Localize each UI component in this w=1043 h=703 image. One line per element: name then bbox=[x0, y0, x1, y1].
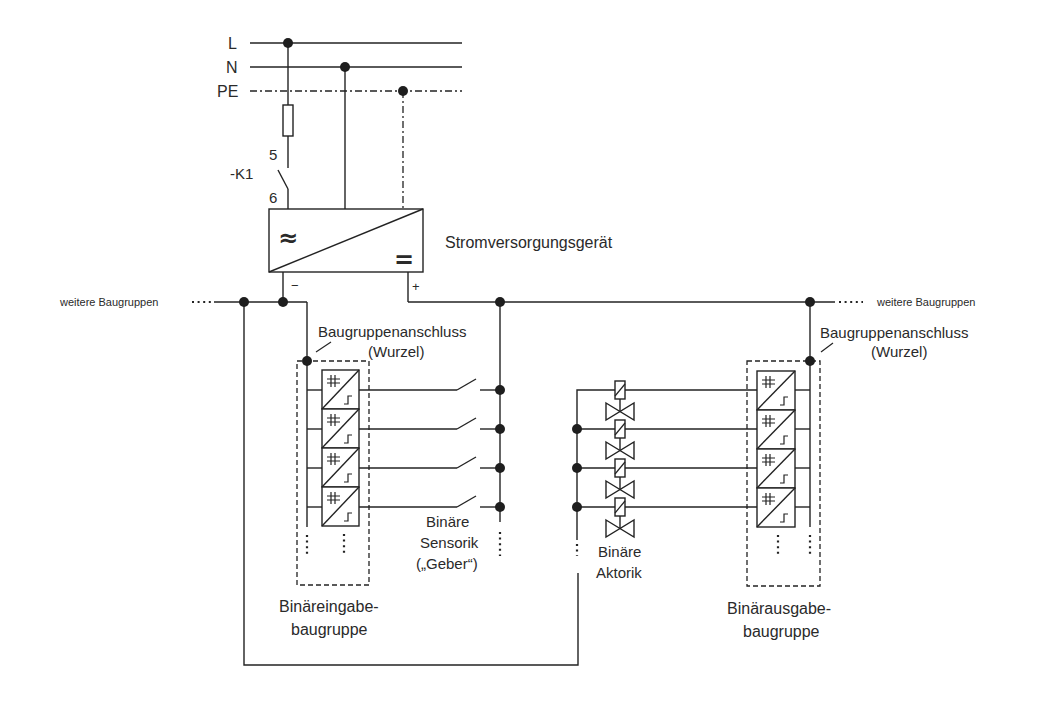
junction-dot bbox=[572, 424, 582, 434]
junction-dot bbox=[572, 463, 582, 473]
output-root-sublabel: (Wurzel) bbox=[871, 343, 927, 360]
junction-dot-pe bbox=[398, 86, 408, 96]
dc-symbol-icon: = bbox=[394, 246, 414, 274]
switch-contact-icon bbox=[457, 418, 476, 429]
sensor-switch bbox=[359, 457, 505, 473]
sensors-label-line1: Binäre bbox=[426, 513, 469, 530]
power-supply-unit: ≈ = Stromversorgungsgerät − + bbox=[269, 209, 613, 302]
input-channel-block bbox=[322, 487, 359, 526]
ac-symbol-icon: ≈ bbox=[278, 224, 298, 252]
output-channel-block bbox=[757, 410, 795, 449]
output-root-leader-line bbox=[821, 343, 833, 352]
wiring-diagram: L N PE 5 -K1 6 ≈ = Stromversorgungsgerät bbox=[0, 0, 1043, 703]
input-channel-block bbox=[322, 370, 359, 409]
sensors-label-line3: („Geber“) bbox=[416, 555, 478, 572]
terminal-5-label: 5 bbox=[269, 146, 277, 163]
input-module-root-dot bbox=[302, 356, 312, 366]
output-channel-block bbox=[757, 449, 795, 488]
switch-contact-icon bbox=[278, 170, 288, 189]
solenoid-valve-icon bbox=[606, 498, 634, 537]
output-root-label: Baugruppenanschluss bbox=[820, 324, 968, 341]
dc-bus: weitere Baugruppen weitere Baugruppen bbox=[59, 296, 975, 665]
input-root-label: Baugruppenanschluss bbox=[318, 323, 466, 340]
plus-label: + bbox=[412, 279, 420, 294]
contactor-label: -K1 bbox=[230, 165, 253, 182]
actuators-label-line2: Aktorik bbox=[596, 564, 642, 581]
input-channel-block bbox=[322, 409, 359, 448]
sensors-label-line2: Sensorik bbox=[420, 534, 479, 551]
output-channel-block bbox=[757, 488, 795, 527]
power-supply-label: Stromversorgungsgerät bbox=[445, 234, 613, 251]
output-module-title-line1: Binärausgabe- bbox=[727, 600, 831, 617]
input-root-sublabel: (Wurzel) bbox=[368, 343, 424, 360]
binary-output-module: Baugruppenanschluss (Wurzel) bbox=[727, 302, 968, 640]
input-module-title-line1: Binäreingabe- bbox=[279, 598, 379, 615]
mains-n-label: N bbox=[226, 59, 238, 76]
switch-contact-icon bbox=[457, 496, 476, 507]
actuators-label-line1: Binäre bbox=[598, 543, 641, 560]
solenoid-valve-icon bbox=[606, 459, 634, 498]
solenoid-valve-icon bbox=[606, 420, 634, 459]
binary-actuators: Binäre Aktorik bbox=[572, 381, 757, 581]
switch-contact-icon bbox=[457, 379, 476, 390]
actuator-return-wire bbox=[577, 390, 757, 540]
junction-dot-l bbox=[283, 38, 293, 48]
input-channel-block bbox=[322, 448, 359, 487]
input-root-leader-line bbox=[316, 342, 331, 352]
junction-dot bbox=[572, 502, 582, 512]
right-continuation-label: weitere Baugruppen bbox=[876, 296, 975, 308]
minus-label: − bbox=[291, 278, 299, 293]
input-module-title-line2: baugruppe bbox=[291, 621, 368, 638]
junction-dot-minus-left bbox=[239, 297, 249, 307]
output-module-title-line2: baugruppe bbox=[743, 623, 820, 640]
output-channel-block bbox=[757, 371, 795, 410]
sensor-switch bbox=[359, 418, 505, 434]
mains-supply: L N PE 5 -K1 6 bbox=[217, 35, 462, 209]
output-module-root-dot bbox=[805, 356, 815, 366]
mains-pe-label: PE bbox=[217, 83, 238, 100]
sensor-switch bbox=[359, 496, 505, 512]
terminal-6-label: 6 bbox=[269, 189, 277, 206]
junction-dot-minus-psu bbox=[278, 297, 288, 307]
switch-contact-icon bbox=[457, 457, 476, 468]
left-continuation-label: weitere Baugruppen bbox=[59, 296, 158, 308]
solenoid-valve-icon bbox=[606, 381, 634, 420]
contactor-k1: 5 -K1 6 bbox=[230, 146, 288, 209]
mains-l-label: L bbox=[228, 35, 237, 52]
sensor-switch bbox=[359, 379, 505, 395]
junction-dot-n bbox=[340, 62, 350, 72]
fuse-icon bbox=[283, 105, 293, 136]
